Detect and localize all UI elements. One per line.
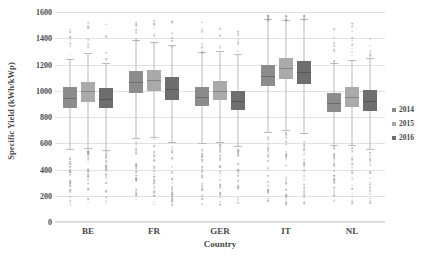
boxplot-ger-2016 <box>231 12 245 222</box>
outlier-point <box>219 183 221 185</box>
boxplot-fr-2014 <box>129 12 143 222</box>
outlier-point <box>267 17 269 19</box>
outlier-point <box>219 35 221 37</box>
outlier-point <box>333 156 335 158</box>
outlier-point <box>303 159 305 161</box>
outlier-point <box>87 39 89 41</box>
outlier-point <box>135 25 137 27</box>
outlier-point <box>135 153 137 155</box>
outlier-point <box>87 198 89 200</box>
whisker-upper <box>106 63 107 89</box>
cap-upper <box>84 53 92 54</box>
outlier-point <box>69 189 71 191</box>
outlier-point <box>171 198 173 200</box>
outlier-point <box>69 166 71 168</box>
boxplot-be-2015 <box>81 12 95 222</box>
outlier-point <box>333 37 335 39</box>
outlier-point <box>87 188 89 190</box>
boxplot-be-2014 <box>63 12 77 222</box>
boxplot-it-2014 <box>261 12 275 222</box>
whisker-upper <box>370 58 371 90</box>
cap-upper <box>66 59 74 60</box>
outlier-point <box>351 188 353 190</box>
whisker-upper <box>70 59 71 88</box>
outlier-point <box>369 160 371 162</box>
outlier-point <box>285 201 287 203</box>
outlier-point <box>369 154 371 156</box>
x-axis-tick-label-nl: NL <box>346 226 359 236</box>
outlier-point <box>351 40 353 42</box>
outlier-point <box>303 175 305 177</box>
outlier-point <box>333 163 335 165</box>
outlier-point <box>267 147 269 149</box>
outlier-point <box>153 195 155 197</box>
outlier-point <box>333 28 335 30</box>
outlier-point <box>135 179 137 181</box>
outlier-point <box>369 190 371 192</box>
whisker-lower <box>304 84 305 133</box>
median-line <box>99 99 113 100</box>
outlier-point <box>285 141 287 143</box>
outlier-point <box>171 149 173 151</box>
outlier-point <box>219 194 221 196</box>
outlier-point <box>333 62 335 64</box>
whisker-upper <box>238 54 239 91</box>
outlier-point <box>201 38 203 40</box>
whisker-upper <box>304 19 305 61</box>
outlier-point <box>351 48 353 50</box>
outlier-point <box>351 178 353 180</box>
outlier-point <box>69 174 71 176</box>
outlier-point <box>369 200 371 202</box>
outlier-point <box>369 54 371 56</box>
outlier-point <box>87 45 89 47</box>
outlier-point <box>105 170 107 172</box>
outlier-point <box>285 20 287 22</box>
outlier-point <box>237 34 239 36</box>
boxplot-group-nl <box>319 12 385 222</box>
outlier-point <box>303 141 305 143</box>
outlier-point <box>369 187 371 189</box>
outlier-point <box>87 161 89 163</box>
outlier-point <box>201 169 203 171</box>
outlier-point <box>201 160 203 162</box>
y-axis-tick-label: 1200 <box>18 60 52 69</box>
outlier-point <box>135 163 137 165</box>
outlier-point <box>153 167 155 169</box>
outlier-point <box>87 175 89 177</box>
whisker-lower <box>172 100 173 142</box>
median-line <box>129 82 143 83</box>
outlier-point <box>267 138 269 140</box>
outlier-point <box>105 165 107 167</box>
outlier-point <box>135 199 137 201</box>
median-line <box>345 97 359 98</box>
outlier-point <box>219 160 221 162</box>
outlier-point <box>69 158 71 160</box>
legend-swatch-icon <box>392 108 396 112</box>
outlier-point <box>219 171 221 173</box>
outlier-point <box>369 159 371 161</box>
outlier-point <box>153 171 155 173</box>
outlier-point <box>201 151 203 153</box>
median-line <box>327 103 341 104</box>
outlier-point <box>351 163 353 165</box>
outlier-point <box>135 174 137 176</box>
outlier-point <box>351 151 353 153</box>
outlier-point <box>303 202 305 204</box>
outlier-point <box>153 187 155 189</box>
outlier-point <box>201 166 203 168</box>
outlier-point <box>219 176 221 178</box>
outlier-point <box>285 155 287 157</box>
outlier-point <box>105 58 107 60</box>
outlier-point <box>333 175 335 177</box>
y-axis-tick-label: 1400 <box>18 34 52 43</box>
outlier-point <box>105 160 107 162</box>
outlier-point <box>333 43 335 45</box>
outlier-point <box>267 143 269 145</box>
whisker-lower <box>136 93 137 138</box>
outlier-point <box>153 155 155 157</box>
outlier-point <box>237 202 239 204</box>
x-axis-tick-labels: BEFRGERITNL <box>55 226 385 240</box>
outlier-point <box>351 148 353 150</box>
outlier-point <box>153 176 155 178</box>
boxplot-ger-2014 <box>195 12 209 222</box>
